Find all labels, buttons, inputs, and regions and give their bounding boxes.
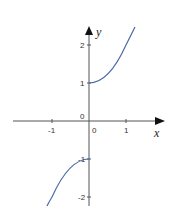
- x-tick-label: 1: [124, 126, 129, 135]
- x-tick-label: 0: [92, 126, 97, 135]
- y-tick-label: -2: [78, 193, 86, 202]
- y-tick-label: 2: [80, 41, 85, 50]
- x-tick-label: -1: [48, 126, 56, 135]
- y-axis-arrow-icon: [85, 26, 93, 35]
- y-tick-label: 1: [80, 79, 85, 88]
- function-graph: y x 0 -1 0 1 2 1 -1 -2: [0, 0, 179, 219]
- x-axis-label: x: [153, 126, 160, 140]
- y-axis-label: y: [95, 25, 102, 39]
- x-axis-arrow-icon: [155, 117, 165, 125]
- origin-label: 0: [80, 112, 85, 121]
- y-tick-label: -1: [78, 155, 86, 164]
